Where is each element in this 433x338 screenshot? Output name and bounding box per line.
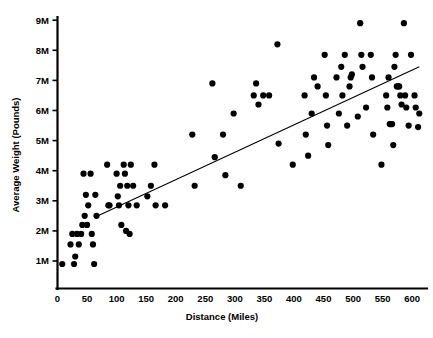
- data-point: [363, 104, 369, 110]
- data-point: [389, 121, 395, 127]
- data-point: [212, 154, 218, 160]
- y-tick-label: 7M: [36, 75, 49, 86]
- data-point: [88, 171, 94, 177]
- x-tick-label: 200: [168, 293, 184, 304]
- data-point: [124, 183, 130, 189]
- trend-line: [95, 67, 420, 218]
- data-point: [91, 261, 97, 267]
- data-point: [324, 122, 330, 128]
- x-tick-label: 550: [375, 293, 391, 304]
- data-point: [338, 64, 344, 70]
- data-point: [342, 52, 348, 58]
- data-point: [346, 83, 352, 89]
- data-point: [359, 64, 365, 70]
- data-point: [339, 92, 345, 98]
- x-tick-label: 300: [227, 293, 243, 304]
- data-point: [383, 92, 389, 98]
- data-point: [189, 131, 195, 137]
- data-point: [104, 162, 110, 168]
- data-point: [148, 183, 154, 189]
- data-point: [59, 261, 65, 267]
- y-tick-label: 6M: [36, 105, 49, 116]
- y-axis-title: Average Weight (Pounds): [10, 97, 21, 212]
- data-point: [255, 101, 261, 107]
- x-tick-label: 50: [82, 293, 93, 304]
- data-point: [391, 64, 397, 70]
- data-point: [72, 253, 78, 259]
- data-point: [408, 52, 414, 58]
- data-points-layer: [59, 20, 422, 267]
- y-tick-label: 3M: [36, 195, 49, 206]
- data-point: [118, 222, 124, 228]
- data-point: [151, 162, 157, 168]
- data-point: [85, 202, 91, 208]
- data-point: [78, 231, 84, 237]
- data-point: [415, 124, 421, 130]
- data-point: [122, 171, 128, 177]
- data-point: [275, 141, 281, 147]
- scatter-chart: Average Weight (Pounds) Distance (Miles)…: [0, 0, 433, 338]
- data-point: [83, 192, 89, 198]
- data-point: [117, 183, 123, 189]
- data-point: [115, 193, 121, 199]
- data-point: [369, 74, 375, 80]
- data-point: [253, 80, 259, 86]
- data-point: [384, 104, 390, 110]
- data-point: [413, 104, 419, 110]
- data-point: [357, 20, 363, 26]
- data-point: [209, 80, 215, 86]
- data-point: [393, 52, 399, 58]
- data-point: [344, 122, 350, 128]
- data-point: [260, 92, 266, 98]
- data-point: [402, 92, 408, 98]
- data-point: [311, 74, 317, 80]
- data-point: [303, 131, 309, 137]
- data-point: [220, 131, 226, 137]
- data-point: [76, 241, 82, 247]
- data-point: [315, 83, 321, 89]
- data-point: [368, 52, 374, 58]
- x-tick-label: 150: [138, 293, 154, 304]
- x-axis-title: Distance (Miles): [186, 311, 258, 322]
- data-point: [82, 213, 88, 219]
- chart-canvas: Average Weight (Pounds) Distance (Miles)…: [0, 0, 433, 338]
- y-tick-label: 1M: [36, 255, 49, 266]
- data-point: [322, 52, 328, 58]
- x-tick-label: 250: [197, 293, 213, 304]
- x-tick-label: 100: [109, 293, 125, 304]
- data-point: [355, 113, 361, 119]
- data-point: [266, 92, 272, 98]
- data-point: [378, 162, 384, 168]
- x-tick-label: 350: [256, 293, 272, 304]
- data-point: [401, 20, 407, 26]
- y-tick-label: 2M: [36, 225, 49, 236]
- y-axis-ticks: 1M2M3M4M5M6M7M8M9M: [36, 15, 58, 267]
- data-point: [80, 171, 86, 177]
- data-point: [305, 153, 311, 159]
- data-point: [162, 202, 168, 208]
- data-point: [192, 183, 198, 189]
- data-point: [370, 131, 376, 137]
- data-point: [67, 241, 73, 247]
- data-point: [84, 222, 90, 228]
- x-tick-label: 600: [404, 293, 420, 304]
- data-point: [396, 83, 402, 89]
- data-point: [251, 92, 257, 98]
- data-point: [71, 261, 77, 267]
- y-tick-label: 9M: [36, 15, 49, 26]
- data-point: [358, 52, 364, 58]
- data-point: [333, 74, 339, 80]
- data-point: [127, 231, 133, 237]
- data-point: [301, 92, 307, 98]
- data-point: [336, 110, 342, 116]
- data-point: [92, 192, 98, 198]
- data-point: [134, 202, 140, 208]
- data-point: [390, 142, 396, 148]
- data-point: [406, 122, 412, 128]
- data-point: [114, 171, 120, 177]
- data-point: [89, 231, 95, 237]
- data-point: [121, 162, 127, 168]
- data-point: [130, 183, 136, 189]
- data-point: [106, 202, 112, 208]
- data-point: [403, 104, 409, 110]
